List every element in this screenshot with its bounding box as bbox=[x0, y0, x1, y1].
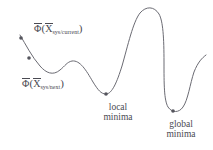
label-phi-next: Φ(Xsys/next) bbox=[22, 77, 64, 90]
label-global-minima: global minima bbox=[157, 120, 205, 140]
label-phi-current: Φ(Xsys/current) bbox=[34, 22, 83, 35]
close-paren-current: ) bbox=[79, 22, 83, 34]
x-overline-current: X bbox=[45, 22, 52, 34]
local-minima-line1: local bbox=[109, 102, 127, 112]
energy-landscape-figure: Φ(Xsys/current) Φ(Xsys/next) local minim… bbox=[0, 0, 213, 150]
marker-group bbox=[19, 36, 175, 113]
subscript-next: sys/next bbox=[41, 84, 61, 90]
x-overline-next: X bbox=[33, 77, 40, 89]
global-minima-point bbox=[171, 109, 175, 113]
phi-overline-next: Φ bbox=[22, 77, 29, 89]
phi-overline-current: Φ bbox=[34, 22, 41, 34]
subscript-current: sys/current bbox=[53, 29, 79, 35]
global-minima-line1: global bbox=[169, 119, 193, 129]
current-point bbox=[19, 36, 23, 40]
global-minima-line2: minima bbox=[157, 130, 205, 140]
local-minima-point bbox=[104, 92, 108, 96]
next-point bbox=[27, 56, 31, 60]
local-minima-line2: minima bbox=[96, 113, 140, 123]
close-paren-next: ) bbox=[60, 77, 64, 89]
label-local-minima: local minima bbox=[96, 103, 140, 123]
